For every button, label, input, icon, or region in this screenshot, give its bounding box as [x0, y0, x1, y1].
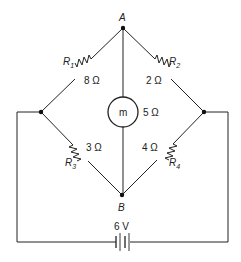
- wire-r4-b: [122, 160, 157, 195]
- battery-voltage: 6 V: [114, 221, 129, 232]
- r3-value: 3 Ω: [86, 142, 102, 153]
- wire-left-outer: [17, 112, 116, 242]
- r1-value: 8 Ω: [84, 75, 100, 86]
- wire-r3-b: [88, 161, 122, 195]
- node-left-dot: [39, 110, 43, 114]
- circuit-diagram: A B R1 8 Ω R2 2 Ω 3 Ω R3 4 Ω R4 m 5 Ω 6 …: [0, 0, 241, 262]
- node-a-label: A: [118, 12, 126, 23]
- battery-icon: [116, 233, 129, 251]
- node-b-label: B: [118, 202, 125, 213]
- meter-symbol: m: [119, 107, 127, 118]
- wire-right-outer: [130, 112, 228, 242]
- meter-value: 5 Ω: [143, 107, 159, 118]
- node-b-dot: [120, 193, 124, 197]
- r4-name: R4: [169, 157, 180, 170]
- r4-value: 4 Ω: [142, 142, 158, 153]
- r2-name: R2: [169, 56, 180, 69]
- wire-left-r3: [41, 112, 73, 145]
- r3-name: R3: [65, 157, 76, 170]
- wire-a-r1: [91, 28, 123, 59]
- wire-r1-left: [41, 79, 75, 112]
- r1-name: R1: [63, 56, 74, 69]
- wire-a-r2: [123, 28, 155, 59]
- node-a-dot: [121, 26, 125, 30]
- wire-r2-right: [171, 79, 204, 112]
- resistor-r1-icon: [75, 55, 91, 67]
- wire-right-r4: [173, 112, 204, 144]
- r2-value: 2 Ω: [146, 75, 162, 86]
- node-right-dot: [202, 110, 206, 114]
